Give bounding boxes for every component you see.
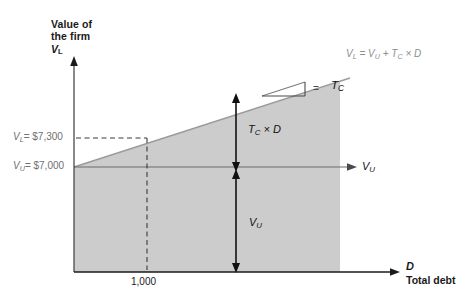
tcd-symbol-sub: C: [255, 128, 261, 137]
vu-symbol-sub: U: [20, 164, 25, 173]
vl-value-label: VL= $7,300: [13, 131, 63, 143]
y-axis-title-line2: the firm: [51, 30, 92, 42]
equation-rest-sub-2: C: [397, 52, 402, 61]
equation-rest-sub-1: U: [375, 52, 380, 61]
unlevered-line-arrowhead: [347, 163, 357, 171]
equation-rest-1: = V: [357, 48, 375, 59]
y-axis-arrowhead: [70, 56, 78, 66]
caption-cutoff: [0, 292, 461, 299]
levered-value-equation-label: VL = VU + TC × D: [346, 48, 421, 60]
tcd-measure-label: TC × D: [248, 123, 281, 136]
equation-rest-3: × D: [403, 48, 422, 59]
vu-value-text: = $7,000: [25, 160, 64, 171]
vu-line-label: VU: [362, 160, 375, 173]
vu-measure-sub: U: [256, 221, 262, 230]
y-axis-title: Value of the firm VL: [51, 18, 92, 56]
vu-value-label: VU= $7,000: [13, 160, 64, 172]
vl-symbol-sub: L: [20, 135, 24, 144]
y-axis-title-symbol: VL: [51, 43, 92, 56]
y-axis-symbol-sub: L: [58, 47, 63, 56]
equation-vl: V: [346, 48, 353, 59]
slope-equals-sign: =: [313, 83, 319, 95]
vu-measure-label: VU: [249, 216, 262, 229]
x-tick-label-1000: 1,000: [131, 276, 156, 288]
tcd-symbol: T: [248, 123, 255, 135]
shaded-region-vu: [74, 167, 340, 272]
slope-tc-sub: C: [338, 84, 344, 93]
vu-line-sub: U: [369, 165, 375, 174]
x-axis-symbol: D: [406, 260, 414, 273]
vl-symbol: V: [13, 131, 20, 142]
tcd-measure-arrowhead-top: [232, 93, 240, 103]
vu-symbol: V: [13, 160, 20, 171]
slope-tc-symbol: T: [331, 79, 338, 91]
x-axis-title: Total debt: [406, 274, 455, 286]
vl-value-text: = $7,300: [24, 131, 63, 142]
y-axis-title-line1: Value of: [51, 18, 92, 30]
slope-tc-label: TC: [331, 79, 344, 93]
tcd-rest: × D: [260, 123, 280, 135]
equation-rest-2: + T: [380, 48, 398, 59]
equation-vl-sub: L: [353, 52, 357, 61]
x-axis-arrowhead: [390, 268, 400, 276]
